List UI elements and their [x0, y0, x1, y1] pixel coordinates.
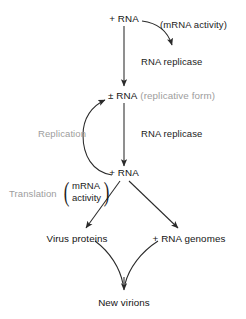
label-mrna-activity-line2: activity: [72, 192, 101, 204]
arrow-to-rna-genomes: [129, 181, 178, 228]
arrow-replication-loop: [83, 100, 112, 175]
node-replicative-form: ± RNA (replicative form): [108, 90, 215, 101]
label-rna-replicase-1: RNA replicase: [141, 56, 203, 67]
node-replicative-form-note: (replicative form): [140, 90, 215, 101]
node-virus-proteins: Virus proteins: [46, 233, 107, 244]
mrna-activity-stack: mRNA activity: [71, 180, 102, 203]
label-mrna-activity-line1: mRNA: [72, 180, 100, 192]
node-rna-genomes: + RNA genomes: [153, 233, 226, 244]
label-translation: Translation: [9, 188, 57, 199]
diagram-arrows-layer: [0, 0, 246, 319]
virus-replication-diagram: + RNA (mRNA activity) RNA replicase ± RN…: [0, 0, 246, 319]
label-mrna-activity-translation: ( mRNA activity ): [62, 180, 111, 203]
label-replication: Replication: [38, 128, 86, 139]
right-paren-glyph: ): [104, 183, 110, 201]
left-paren-glyph: (: [64, 183, 70, 201]
node-mid-rna: + RNA: [109, 167, 139, 178]
node-new-virions: New virions: [98, 297, 150, 308]
arrow-rna-genomes-to-new-virions: [125, 241, 158, 284]
label-mrna-activity-top: (mRNA activity): [160, 19, 227, 30]
node-top-rna: + RNA: [109, 13, 139, 24]
label-rna-replicase-2: RNA replicase: [141, 128, 203, 139]
node-replicative-form-main: ± RNA: [108, 90, 137, 101]
arrow-virus-proteins-to-new-virions: [95, 241, 123, 284]
